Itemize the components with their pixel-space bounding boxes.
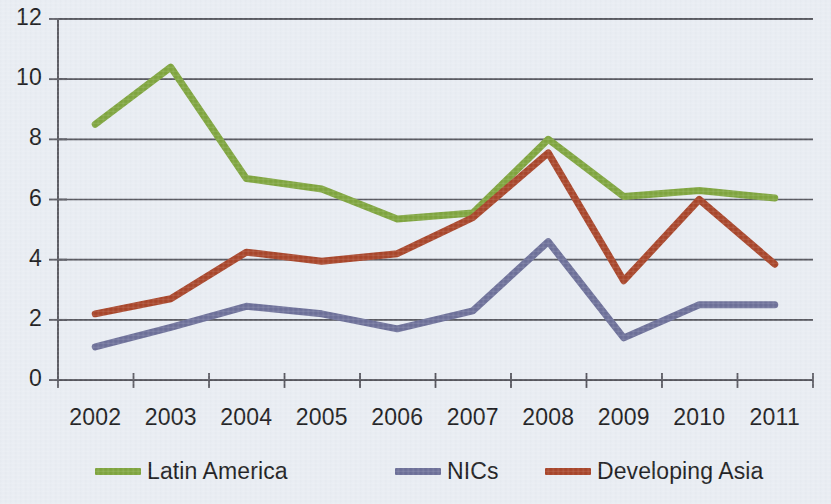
legend-color-swatch [545, 468, 591, 475]
y-axis-tick-label: 0 [2, 365, 42, 392]
y-axis-tick-label: 4 [2, 245, 42, 272]
legend-item-nics[interactable]: NICs [395, 456, 499, 486]
x-axis-tick-label: 2011 [730, 404, 820, 431]
y-axis-tick-label: 2 [2, 305, 42, 332]
y-axis-tick-label: 12 [2, 4, 42, 31]
legend-color-swatch [95, 468, 141, 475]
line-chart: 024681012 200220032004200520062007200820… [0, 0, 831, 504]
data-series [95, 67, 775, 347]
legend-label: Developing Asia [597, 458, 763, 485]
chart-legend: Latin AmericaNICsDeveloping Asia [0, 456, 831, 496]
y-axis-tick-label: 10 [2, 64, 42, 91]
series-line-latin-america [95, 67, 775, 219]
legend-item-developing-asia[interactable]: Developing Asia [545, 456, 763, 486]
legend-label: Latin America [147, 458, 288, 485]
series-line-nics [95, 242, 775, 347]
y-axis-tick-label: 6 [2, 185, 42, 212]
series-line-developing-asia [95, 153, 775, 314]
legend-color-swatch [395, 468, 441, 475]
legend-item-latin-america[interactable]: Latin America [95, 456, 288, 486]
y-axis-tick-label: 8 [2, 124, 42, 151]
legend-label: NICs [447, 458, 499, 485]
